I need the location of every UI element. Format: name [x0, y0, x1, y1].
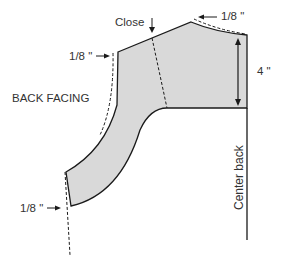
title-label: BACK FACING	[12, 93, 89, 105]
depth-label: 4 "	[257, 66, 271, 78]
hem-arrow-icon	[55, 206, 61, 211]
hem-allowance-label: 1/8 "	[20, 203, 43, 215]
close-label: Close	[115, 17, 144, 29]
shoulder-arrow-icon	[198, 15, 204, 20]
center-back-label: Center back	[233, 145, 245, 210]
pattern-drawing	[0, 0, 283, 267]
back-facing-piece	[66, 22, 247, 206]
side-allowance-label: 1/8 "	[69, 51, 92, 63]
side-arrow-icon	[104, 54, 110, 59]
close-arrow-icon	[149, 27, 155, 33]
shoulder-allowance-label: 1/8 "	[221, 11, 244, 23]
